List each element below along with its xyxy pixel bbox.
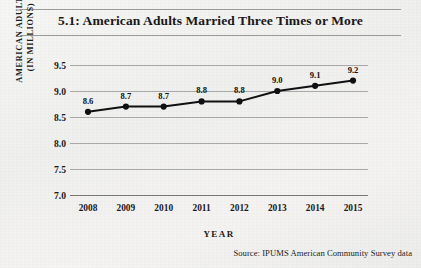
- data-point-marker: [85, 109, 91, 115]
- data-label: 9.2: [338, 65, 368, 75]
- data-label: 8.7: [111, 91, 141, 101]
- data-label: 8.7: [149, 91, 179, 101]
- data-label: 8.8: [187, 85, 217, 95]
- data-label: 8.6: [73, 96, 103, 106]
- plot-area: AMERICAN ADULTS (IN MILLIONS) 9.5 9.0 8.…: [0, 0, 421, 268]
- data-label: 8.8: [224, 85, 254, 95]
- source-note: Source: IPUMS American Community Survey …: [0, 248, 412, 258]
- data-point-marker: [161, 104, 167, 110]
- data-point-marker: [123, 104, 129, 110]
- data-label: 9.1: [300, 70, 330, 80]
- data-point-marker: [199, 98, 205, 104]
- data-point-marker: [236, 98, 242, 104]
- data-point-marker: [274, 88, 280, 94]
- data-point-marker: [350, 78, 356, 84]
- data-series-line: [0, 0, 421, 268]
- x-axis-title: YEAR: [70, 229, 368, 239]
- data-label: 9.0: [262, 75, 292, 85]
- x-tick-label: 2015: [331, 203, 375, 213]
- data-point-marker: [312, 83, 318, 89]
